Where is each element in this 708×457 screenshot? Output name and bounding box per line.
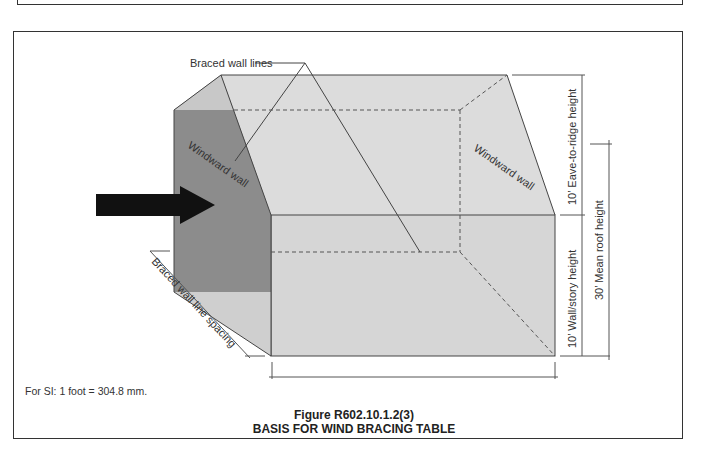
mean-roof-height-label: 30’ Mean roof height <box>593 200 605 300</box>
wall-story-height-label: 10’ Wall/story height <box>566 250 578 348</box>
front-face <box>271 215 555 356</box>
braced-wall-lines-label: Braced wall lines <box>190 57 273 69</box>
figure-title: BASIS FOR WIND BRACING TABLE <box>0 422 708 436</box>
eave-to-ridge-label: 10’ Eave-to-ridge height <box>566 89 578 205</box>
figure-number: Figure R602.10.1.2(3) <box>0 408 708 422</box>
si-conversion-note: For SI: 1 foot = 304.8 mm. <box>25 385 147 397</box>
